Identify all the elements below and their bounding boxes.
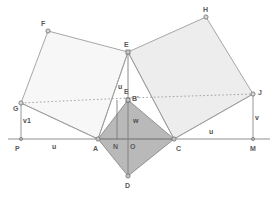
- label-point-Bprime: B': [132, 95, 139, 102]
- point-D: [126, 174, 130, 178]
- geometry-figure: F H E G J B' E A C D P M N O u u u v1 v …: [0, 0, 275, 201]
- label-segment-w: w: [133, 117, 138, 124]
- label-segment-u-vert: u: [118, 83, 122, 90]
- point-M: [251, 137, 254, 140]
- label-point-E-inner: E: [124, 88, 129, 95]
- label-segment-v1: v1: [23, 117, 31, 124]
- label-point-P: P: [15, 145, 20, 152]
- label-point-A: A: [93, 145, 98, 152]
- label-point-G: G: [13, 105, 18, 112]
- label-point-J: J: [258, 89, 262, 96]
- label-point-N: N: [113, 143, 118, 150]
- point-C: [172, 137, 176, 141]
- label-point-D: D: [125, 182, 130, 189]
- label-segment-u-left: u: [52, 143, 56, 150]
- point-J: [251, 92, 255, 96]
- point-H: [204, 15, 208, 19]
- point-Bprime: [126, 98, 130, 102]
- label-point-C: C: [176, 145, 181, 152]
- label-point-M: M: [250, 145, 256, 152]
- label-point-H: H: [203, 6, 208, 13]
- point-E: [126, 50, 130, 54]
- label-segment-v-right: v: [255, 114, 259, 121]
- label-segment-u-right: u: [209, 128, 213, 135]
- label-point-E: E: [124, 41, 129, 48]
- point-P: [19, 137, 22, 140]
- point-F: [46, 29, 50, 33]
- label-point-O: O: [130, 143, 135, 150]
- point-A: [96, 137, 100, 141]
- label-point-F: F: [41, 20, 45, 27]
- point-G: [19, 101, 23, 105]
